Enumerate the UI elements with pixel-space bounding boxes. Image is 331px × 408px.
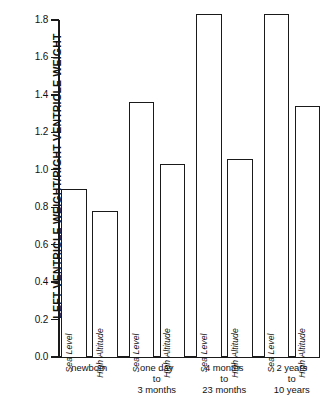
- bar: Sea Level: [196, 14, 222, 357]
- bar: High Altitude: [227, 159, 253, 357]
- x-group-label-line: 10 years: [256, 384, 329, 395]
- x-group-label: newborn: [53, 362, 126, 373]
- chart-container: LEFT VENTRICLE WEIGHT/RIGHT VENTRICLE WE…: [0, 0, 331, 408]
- x-group-label-line: newborn: [53, 362, 126, 373]
- bar: High Altitude: [160, 164, 186, 357]
- y-tick-label: 1.4: [8, 89, 48, 100]
- bar: High Altitude: [295, 106, 321, 357]
- y-tick-label: 0.4: [8, 276, 48, 287]
- x-group-label-line: to: [256, 373, 329, 384]
- y-tick-label: 0.8: [8, 201, 48, 212]
- x-group-label-line: 2 years: [256, 362, 329, 373]
- y-tick-label: 0.2: [8, 314, 48, 325]
- x-group-label: 2 yearsto10 years: [256, 362, 329, 395]
- x-group-label-line: 4 months: [188, 362, 261, 373]
- y-tick-label: 0.0: [8, 351, 48, 362]
- y-tick-label: 1.8: [8, 14, 48, 25]
- bar: Sea Level: [129, 102, 155, 357]
- x-group-label-line: 23 months: [188, 384, 261, 395]
- x-group-label-line: 3 months: [121, 384, 194, 395]
- x-group-label-line: to: [188, 373, 261, 384]
- bar: Sea Level: [264, 14, 290, 357]
- x-group-label: one dayto3 months: [121, 362, 194, 395]
- y-tick-label: 1.0: [8, 164, 48, 175]
- plot-area: Sea LevelHigh AltitudeSea LevelHigh Alti…: [58, 20, 320, 357]
- bar: High Altitude: [92, 211, 118, 357]
- x-group-label: 4 monthsto23 months: [188, 362, 261, 395]
- x-group-label-line: to: [121, 373, 194, 384]
- x-group-label-line: one day: [121, 362, 194, 373]
- y-tick-label: 0.6: [8, 239, 48, 250]
- y-tick-label: 1.6: [8, 51, 48, 62]
- y-tick-label: 1.2: [8, 126, 48, 137]
- bar: Sea Level: [61, 189, 87, 358]
